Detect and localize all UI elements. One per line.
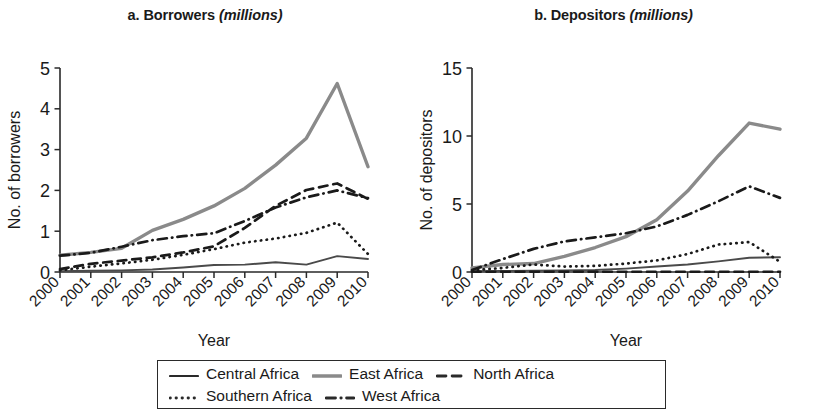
legend-label: Southern Africa xyxy=(206,388,312,404)
y-tick-label: 3 xyxy=(40,140,50,160)
x-tick-label: 2004 xyxy=(561,273,598,310)
x-tick-label: 2002 xyxy=(87,273,123,309)
panel-b-title-units: (millions) xyxy=(629,7,692,23)
series-line xyxy=(60,183,368,269)
y-tick-label: 1 xyxy=(40,222,50,242)
legend-item-north-africa: North Africa xyxy=(436,366,554,382)
x-tick-label: 2010 xyxy=(746,273,783,310)
x-tick-label: 2003 xyxy=(118,273,154,309)
x-tick-label: 2001 xyxy=(57,273,93,309)
legend-item-southern-africa: Southern Africa xyxy=(169,388,312,404)
x-tick-label: 2001 xyxy=(469,273,505,309)
legend-line-swatch xyxy=(169,368,199,380)
series-line xyxy=(60,256,368,271)
legend-item-east-africa: East Africa xyxy=(312,366,423,382)
x-tick-label: 2000 xyxy=(438,273,475,310)
x-axis-title: Year xyxy=(610,332,643,349)
x-tick-label: 2009 xyxy=(303,273,339,309)
panel-a-title-prefix: a. Borrowers xyxy=(128,7,219,23)
legend-line-swatch xyxy=(436,368,466,380)
legend-line-swatch xyxy=(169,390,199,402)
legend-label: East Africa xyxy=(349,366,423,382)
y-axis-title: No. of depositors xyxy=(418,110,435,231)
panel-a-title: a. Borrowers (millions) xyxy=(0,7,410,23)
x-axis-title: Year xyxy=(198,332,231,349)
series-line xyxy=(472,242,780,270)
legend-row: Southern AfricaWest Africa xyxy=(158,385,665,407)
x-tick-label: 2006 xyxy=(623,273,659,309)
x-tick-label: 2004 xyxy=(149,273,186,310)
legend-label: North Africa xyxy=(473,366,554,382)
x-tick-label: 2010 xyxy=(334,273,371,310)
legend-row: Central AfricaEast AfricaNorth Africa xyxy=(158,363,665,385)
x-tick-label: 2006 xyxy=(211,273,247,309)
x-tick-label: 2007 xyxy=(653,273,689,309)
figure-container: a. Borrowers (millions) 0123452000200120… xyxy=(0,0,817,412)
legend-line-swatch xyxy=(312,368,342,380)
x-tick-label: 2005 xyxy=(592,273,628,309)
legend-item-west-africa: West Africa xyxy=(325,388,440,404)
legend-label: West Africa xyxy=(362,388,440,404)
y-tick-label: 10 xyxy=(442,127,462,147)
x-tick-label: 2003 xyxy=(530,273,566,309)
axis-lines xyxy=(472,68,780,272)
legend-item-central-africa: Central Africa xyxy=(169,366,299,382)
y-tick-label: 2 xyxy=(40,181,50,201)
axis-lines xyxy=(60,68,368,272)
x-tick-label: 2007 xyxy=(241,273,277,309)
legend-line-swatch xyxy=(325,390,355,402)
y-tick-label: 4 xyxy=(40,99,50,119)
x-tick-label: 2005 xyxy=(180,273,216,309)
y-tick-label: 5 xyxy=(452,195,462,215)
panel-borrowers: a. Borrowers (millions) 0123452000200120… xyxy=(0,0,410,350)
x-tick-label: 2008 xyxy=(272,273,308,309)
panel-a-title-units: (millions) xyxy=(219,7,282,23)
chart-legend: Central AfricaEast AfricaNorth Africa So… xyxy=(157,360,666,409)
x-tick-label: 2008 xyxy=(684,273,720,309)
y-tick-label: 15 xyxy=(442,59,462,79)
panel-b-title-prefix: b. Depositors xyxy=(534,7,629,23)
x-tick-label: 2002 xyxy=(499,273,535,309)
series-line xyxy=(60,190,368,255)
y-tick-label: 5 xyxy=(40,59,50,79)
series-line xyxy=(472,186,780,270)
panel-depositors: b. Depositors (millions) 051015200020012… xyxy=(410,0,817,350)
borrowers-chart: 0123452000200120022003200420052006200720… xyxy=(0,30,410,350)
legend-label: Central Africa xyxy=(206,366,299,382)
depositors-chart: 0510152000200120022003200420052006200720… xyxy=(410,30,817,350)
y-axis-title: No. of borrowers xyxy=(6,111,23,229)
series-line xyxy=(472,123,780,268)
x-tick-label: 2000 xyxy=(26,273,63,310)
series-line xyxy=(60,84,368,256)
panel-b-title: b. Depositors (millions) xyxy=(410,7,817,23)
x-tick-label: 2009 xyxy=(715,273,751,309)
